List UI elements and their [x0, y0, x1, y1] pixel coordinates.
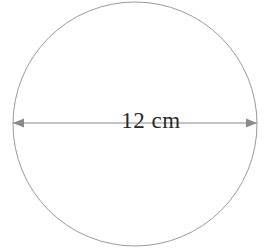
geometry-figure: 12 cm	[0, 0, 273, 250]
circle-shape	[13, 2, 257, 246]
arrowhead-left-icon	[13, 118, 24, 127]
arrowhead-right-icon	[246, 118, 257, 127]
diameter-dimension-arrow	[13, 118, 257, 127]
figure-canvas	[0, 0, 273, 250]
